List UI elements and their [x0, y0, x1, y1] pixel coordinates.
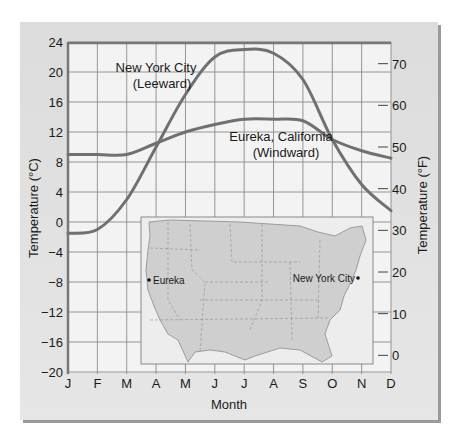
- nyc-annotation-line1: New York City: [116, 60, 197, 75]
- x-tick-label: D: [386, 376, 395, 391]
- right-y-axis-label: Temperature (°F): [415, 156, 430, 254]
- nyc-annotation-line2: (Leeward): [133, 76, 192, 91]
- y-right-tick-label: 60: [392, 98, 406, 113]
- x-axis-label: Month: [211, 397, 247, 412]
- y-right-tick-label: 20: [392, 265, 406, 280]
- temperature-chart: Eureka New York City 24201612840−4−8−12−…: [0, 0, 460, 437]
- y-right-tick-label: 50: [392, 140, 406, 155]
- left-y-axis-label: Temperature (°C): [26, 158, 41, 258]
- x-tick-label: J: [65, 376, 72, 391]
- x-tick-label: J: [212, 376, 219, 391]
- y-tick-label: 12: [49, 125, 63, 140]
- y-tick-label: 24: [49, 35, 63, 50]
- y-tick-label: −4: [48, 245, 63, 260]
- x-tick-label: A: [152, 376, 161, 391]
- x-tick-label: O: [327, 376, 337, 391]
- nyc-dot: [356, 276, 360, 280]
- x-tick-label: N: [357, 376, 366, 391]
- eureka-dot: [147, 278, 151, 282]
- y-right-tick-label: 70: [392, 57, 406, 72]
- y-tick-label: 0: [56, 215, 63, 230]
- y-tick-label: 16: [49, 95, 63, 110]
- x-tick-label: F: [93, 376, 101, 391]
- y-right-tick-label: 0: [392, 348, 399, 363]
- y-right-tick-label: 30: [392, 223, 406, 238]
- map-label-eureka: Eureka: [153, 275, 185, 286]
- y-tick-label: 4: [56, 185, 63, 200]
- inset-map: Eureka New York City: [141, 217, 373, 364]
- left-y-ticks: 24201612840−4−8−12−16−20: [41, 35, 63, 380]
- y-right-tick-label: 10: [392, 307, 406, 322]
- x-tick-label: A: [269, 376, 278, 391]
- x-tick-label: S: [299, 376, 308, 391]
- y-tick-label: 8: [56, 155, 63, 170]
- eureka-annotation-line1: Eureka, California: [229, 129, 333, 144]
- x-tick-label: M: [180, 376, 191, 391]
- y-tick-label: −12: [41, 305, 63, 320]
- x-tick-label: M: [121, 376, 132, 391]
- map-label-nyc: New York City: [293, 273, 355, 284]
- x-ticks: JFMAMJJASOND: [65, 376, 396, 391]
- x-tick-label: J: [241, 376, 248, 391]
- y-tick-label: −16: [41, 335, 63, 350]
- eureka-annotation-line2: (Windward): [253, 145, 319, 160]
- y-tick-label: 20: [49, 65, 63, 80]
- y-right-tick-label: 40: [392, 182, 406, 197]
- y-tick-label: −8: [48, 275, 63, 290]
- y-tick-label: −20: [41, 365, 63, 380]
